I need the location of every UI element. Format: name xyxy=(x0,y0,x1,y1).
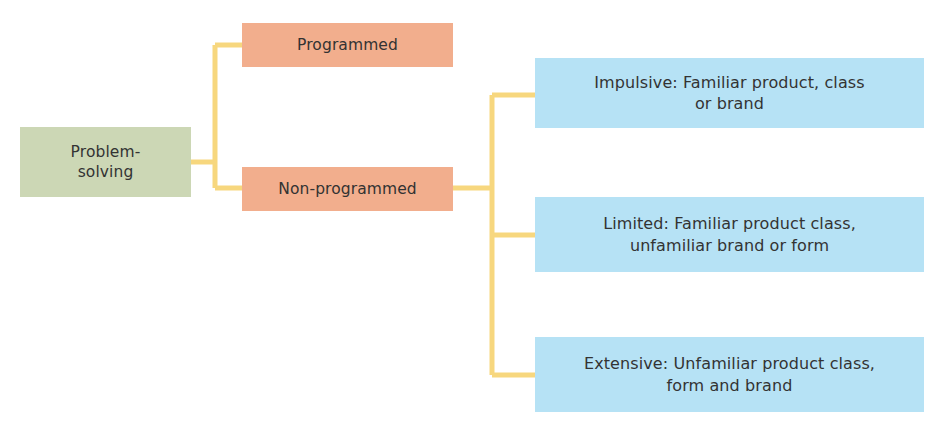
node-impulsive-label: Impulsive: Familiar product, class or br… xyxy=(594,72,864,114)
node-extensive: Extensive: Unfamiliar product class, for… xyxy=(535,337,924,412)
node-impulsive: Impulsive: Familiar product, class or br… xyxy=(535,58,924,128)
node-programmed-label: Programmed xyxy=(297,35,398,55)
node-limited: Limited: Familiar product class, unfamil… xyxy=(535,197,924,272)
node-problem-solving-label: Problem- solving xyxy=(71,142,141,183)
node-problem-solving: Problem- solving xyxy=(20,127,191,197)
node-extensive-label: Extensive: Unfamiliar product class, for… xyxy=(584,353,875,395)
diagram-canvas: Problem- solving Programmed Non-programm… xyxy=(0,0,946,431)
node-non-programmed-label: Non-programmed xyxy=(278,179,417,199)
node-non-programmed: Non-programmed xyxy=(242,167,453,211)
node-programmed: Programmed xyxy=(242,23,453,67)
node-limited-label: Limited: Familiar product class, unfamil… xyxy=(603,213,856,255)
